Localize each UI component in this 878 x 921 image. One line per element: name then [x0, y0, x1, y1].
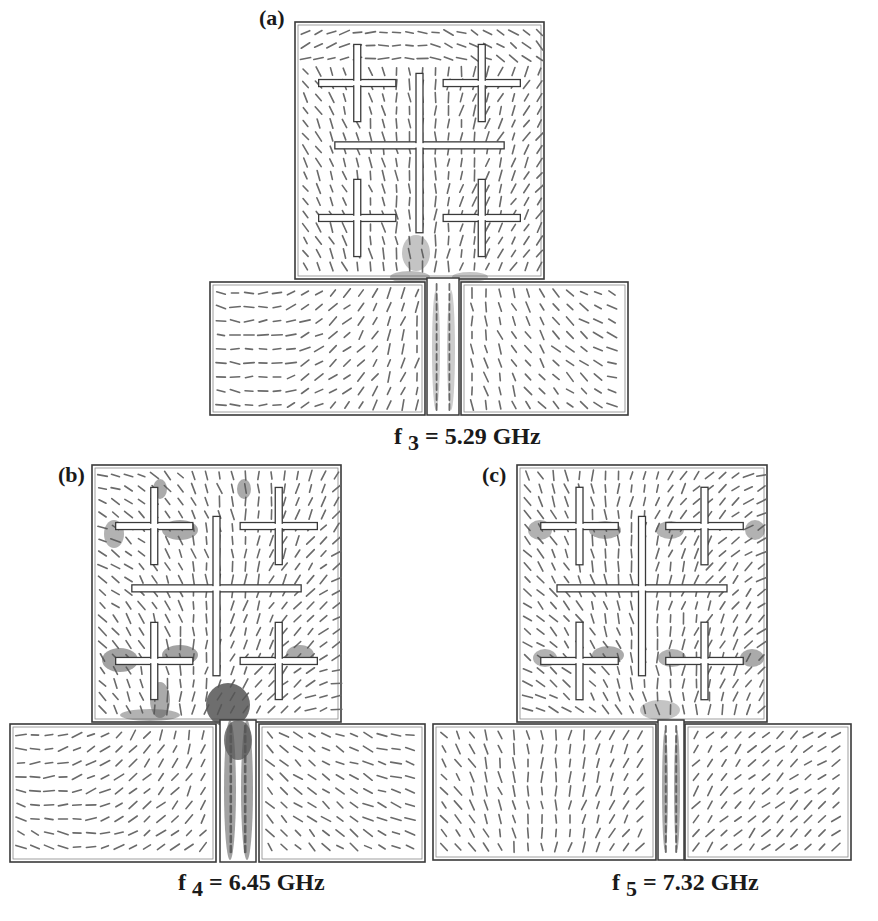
freq-symbol: f — [612, 869, 620, 895]
freq-value: = 7.32 GHz — [643, 869, 759, 895]
panel-c-current-plot — [0, 0, 878, 921]
panel-c-caption: f 5 = 7.32 GHz — [612, 869, 759, 902]
freq-index: 5 — [626, 876, 637, 901]
